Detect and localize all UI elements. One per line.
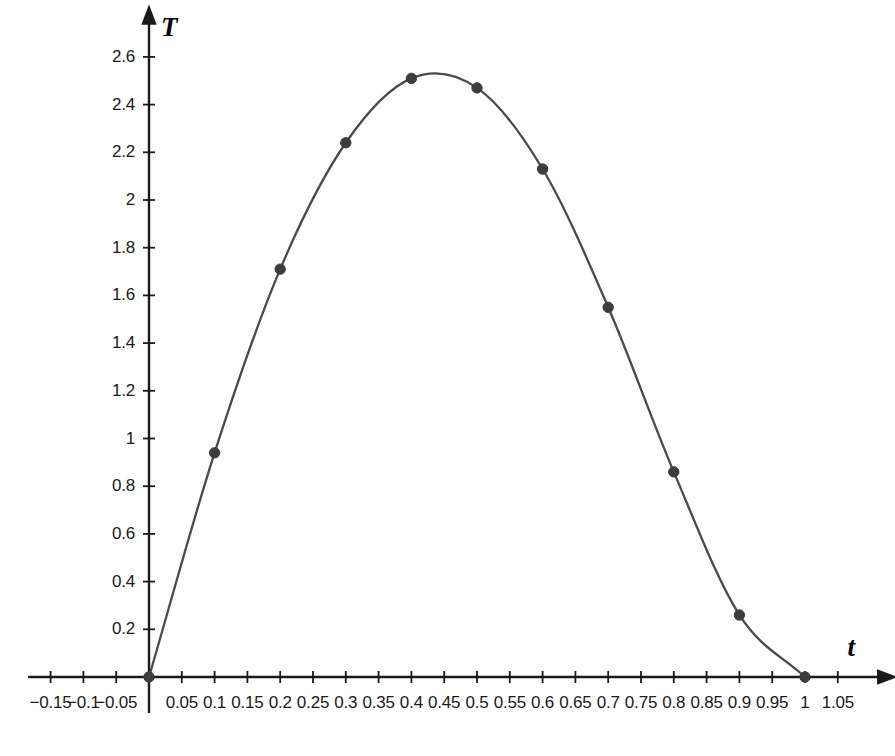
y-tick-label: 0.6 [0,524,135,544]
data-point-marker [275,264,285,274]
data-curve [149,73,805,677]
x-tick-label: 0.85 [690,693,722,713]
y-tick-label: 1 [0,429,135,449]
data-point-marker [341,138,351,148]
y-tick-label: 1.6 [0,285,135,305]
x-tick-label: 1.05 [822,693,854,713]
x-tick-label: 0.8 [662,693,685,713]
x-tick-label: 0.75 [625,693,657,713]
y-tick-label: 2.4 [0,95,135,115]
tick-marks-layer [51,57,838,683]
x-tick-label: −0.05 [95,693,137,713]
data-point-marker [144,672,154,682]
x-tick-label: 0.2 [269,693,292,713]
x-tick-label: 0.4 [400,693,423,713]
x-tick-label: 0.15 [231,693,263,713]
x-tick-label: 0.25 [297,693,329,713]
y-tick-label: 0.4 [0,572,135,592]
x-tick-label: 0.9 [728,693,751,713]
axis-layer [28,22,879,713]
x-tick-label: 0.35 [362,693,394,713]
y-tick-label: 2.2 [0,142,135,162]
x-tick-label: 0.05 [166,693,198,713]
y-tick-label: 0.2 [0,619,135,639]
x-axis-label: t [847,632,855,663]
x-tick-label: 0.7 [597,693,620,713]
data-point-marker [537,164,547,174]
y-tick-label: 1.4 [0,333,135,353]
series-line-T [149,73,805,677]
x-tick-label: 0.1 [203,693,226,713]
y-tick-label: 1.8 [0,238,135,258]
y-tick-label: 1.2 [0,381,135,401]
x-tick-label: −0.15 [30,693,72,713]
x-tick-label: 0.6 [531,693,554,713]
data-point-marker [603,302,613,312]
y-tick-label: 2.6 [0,47,135,67]
x-tick-label: 0.5 [465,693,488,713]
data-point-marker [800,672,810,682]
x-tick-label: 0.95 [756,693,788,713]
chart-container: −0.15−0.1−0.050.050.10.150.20.250.30.350… [0,0,895,756]
y-tick-label: 0.8 [0,476,135,496]
x-tick-label: 0.45 [428,693,460,713]
data-point-marker [472,83,482,93]
y-axis-label: T [161,12,178,43]
x-tick-label: 0.65 [559,693,591,713]
data-point-marker [669,467,679,477]
data-point-marker [209,448,219,458]
y-tick-label: 2 [0,190,135,210]
x-tick-label: 1 [800,693,809,713]
data-point-markers [144,73,810,682]
data-point-marker [406,73,416,83]
x-tick-label: 0.55 [494,693,526,713]
data-point-marker [734,610,744,620]
x-tick-label: 0.3 [334,693,357,713]
